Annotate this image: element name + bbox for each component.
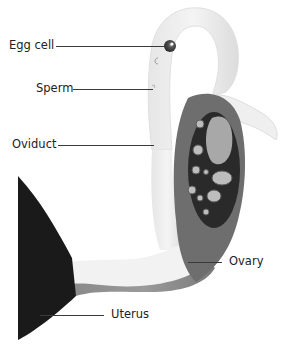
label-oviduct: Oviduct	[12, 139, 56, 151]
label-ovary: Ovary	[229, 256, 263, 268]
leader-ovary	[188, 262, 222, 263]
leader-uterus	[40, 315, 104, 316]
leader-egg-cell	[56, 46, 164, 47]
label-uterus: Uterus	[111, 309, 149, 321]
label-sperm: Sperm	[36, 83, 73, 95]
oviduct-tube	[72, 8, 277, 296]
leader-sperm	[73, 89, 153, 90]
leader-oviduct	[58, 145, 154, 146]
reproductive-tract-diagram: Egg cell Sperm Oviduct Ovary Uterus	[0, 0, 287, 354]
label-egg-cell: Egg cell	[9, 40, 54, 52]
anatomy-illustration	[0, 0, 287, 354]
egg-cell-icon	[164, 40, 176, 52]
